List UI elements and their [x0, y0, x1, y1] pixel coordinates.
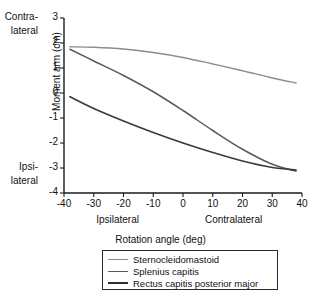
x-tick-label-neg40: -40	[50, 199, 78, 209]
x-axis-title: Rotation angle (deg)	[0, 235, 321, 245]
y-tick-label-1: 1	[36, 62, 58, 72]
x-tick-label-40: 40	[288, 199, 316, 209]
series-line-0	[70, 47, 296, 83]
legend-swatch-line-icon	[108, 271, 128, 272]
x-annotation-ipsilateral: Ipsilateral	[83, 215, 153, 225]
legend-item-rectus-capitis-posterior-major: Rectus capitis posterior major	[108, 277, 277, 289]
legend-swatch-line-icon	[108, 259, 128, 260]
x-tick-label-10: 10	[199, 199, 227, 209]
y-annotation-ipsilateral-line2: lateral	[0, 176, 38, 186]
legend-label: Sternocleidomastoid	[133, 254, 219, 265]
x-tick-label-neg20: -20	[110, 199, 138, 209]
y-annotation-contralateral-line2: lateral	[0, 26, 38, 36]
x-tick-label-0: 0	[169, 199, 197, 209]
x-tick-label-20: 20	[229, 199, 257, 209]
series-line-1	[70, 49, 296, 171]
legend-item-sternocleidomastoid: Sternocleidomastoid	[108, 253, 277, 265]
y-tick-label-0: 0	[36, 87, 58, 97]
y-tick-label-neg1: -1	[36, 112, 58, 122]
y-tick-label-2: 2	[36, 37, 58, 47]
legend-item-splenius-capitis: Splenius capitis	[108, 265, 277, 277]
y-tick-label-neg4: -4	[36, 187, 58, 197]
x-annotation-contralateral: Contralateral	[192, 215, 276, 225]
x-tick-label-neg10: -10	[139, 199, 167, 209]
chart-figure: Moment arm (cm) 3 2 1 0 -1 -2 -3 -4 Cont…	[0, 0, 321, 298]
legend-label: Splenius capitis	[133, 266, 199, 277]
y-tick-label-neg3: -3	[36, 162, 58, 172]
legend: Sternocleidomastoid Splenius capitis Rec…	[102, 250, 278, 290]
y-annotation-contralateral-line1: Contra-	[0, 12, 38, 22]
y-annotation-ipsilateral-line1: Ipsi-	[0, 162, 38, 172]
y-tick-label-neg2: -2	[36, 137, 58, 147]
legend-swatch-line-icon	[108, 282, 128, 284]
x-tick-label-30: 30	[258, 199, 286, 209]
y-tick-label-3: 3	[36, 12, 58, 22]
x-tick-label-neg30: -30	[80, 199, 108, 209]
legend-label: Rectus capitis posterior major	[133, 278, 258, 289]
